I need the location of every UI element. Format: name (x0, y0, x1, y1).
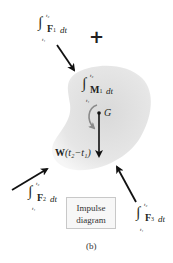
lower-limit: t₁ (32, 206, 35, 211)
label-weight-impulse: W(t₂−t₁) (55, 147, 91, 158)
upper-limit: t₂ (90, 73, 93, 78)
diagram-title-line1: Impulse (67, 202, 115, 214)
upper-limit: t₂ (36, 181, 39, 186)
force-f1-arrow (57, 45, 74, 70)
diagram-title-box: Impulse diagram (66, 197, 116, 229)
dt-symbol: dt (50, 194, 57, 204)
dt-symbol: dt (106, 86, 113, 96)
integral-sign: ∫ (82, 75, 86, 92)
integral-sign: ∫ (136, 204, 140, 221)
lower-limit: t₁ (140, 227, 143, 232)
upper-limit: t₂ (46, 13, 49, 18)
vector-symbol: M1 (90, 84, 102, 95)
integral-sign: ∫ (38, 14, 42, 31)
upper-limit: t₂ (144, 202, 147, 207)
plus-sign: + (89, 26, 104, 47)
diagram-title-line2: diagram (67, 214, 115, 226)
dt-symbol: dt (158, 214, 165, 224)
force-f3-arrow (117, 167, 136, 202)
vector-symbol: F2 (37, 192, 46, 203)
lower-limit: t₁ (86, 98, 89, 103)
figure-caption: (b) (86, 241, 97, 251)
vector-symbol: F3 (145, 212, 154, 223)
integral-sign: ∫ (28, 183, 32, 200)
vector-symbol: F1 (47, 23, 56, 34)
lower-limit: t₁ (42, 37, 45, 42)
dt-symbol: dt (60, 25, 67, 35)
center-of-mass-label: G (104, 107, 111, 118)
